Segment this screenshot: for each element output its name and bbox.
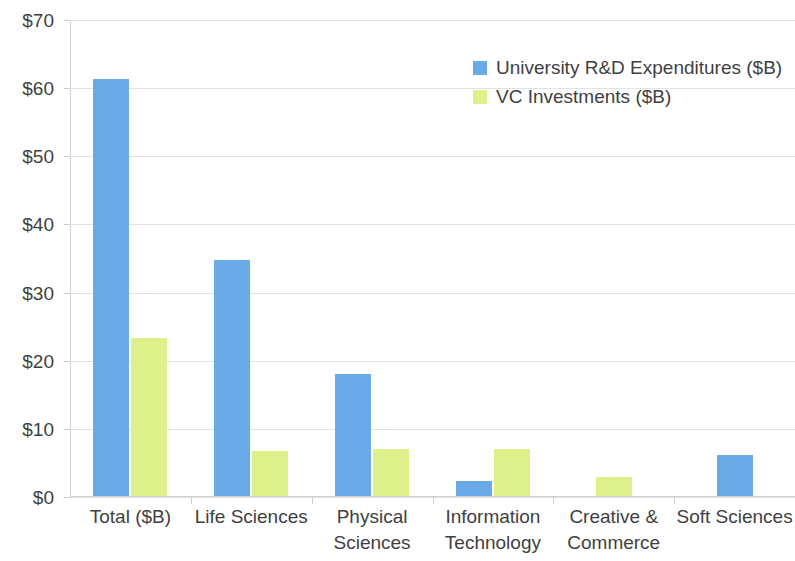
y-tickmark xyxy=(64,497,70,498)
bar xyxy=(373,449,409,497)
bar-group xyxy=(191,20,312,497)
bar-group xyxy=(312,20,433,497)
y-tick-label: $50 xyxy=(22,147,54,166)
x-tick-label-line: Physical xyxy=(312,504,433,530)
y-tick-label: $20 xyxy=(22,351,54,370)
x-tick-label-line: Information xyxy=(433,504,554,530)
bar xyxy=(596,477,632,497)
x-tick-label: Soft Sciences xyxy=(674,504,795,530)
category-separator xyxy=(191,497,192,504)
y-tick-label: $60 xyxy=(22,79,54,98)
x-axis-line xyxy=(70,496,795,497)
x-tick-label-line: Technology xyxy=(433,530,554,556)
y-tick-label: $30 xyxy=(22,283,54,302)
x-axis-labels: Total ($B)Life SciencesPhysicalSciencesI… xyxy=(70,504,795,561)
x-tick-label-line: Total ($B) xyxy=(70,504,191,530)
x-tick-label-line: Soft Sciences xyxy=(674,504,795,530)
x-tick-label: PhysicalSciences xyxy=(312,504,433,556)
bar xyxy=(335,374,371,497)
x-tick-label: InformationTechnology xyxy=(433,504,554,556)
y-tick-label: $10 xyxy=(22,419,54,438)
bar-group xyxy=(70,20,191,497)
bar-chart: $70$60$50$40$30$20$10$0 Total ($B)Life S… xyxy=(0,0,795,561)
category-separator xyxy=(312,497,313,504)
x-tick-label: Total ($B) xyxy=(70,504,191,530)
legend-entry[interactable]: University R&D Expenditures ($B) xyxy=(473,57,782,79)
bar xyxy=(131,338,167,497)
category-separator xyxy=(674,497,675,504)
x-tick-label-line: Commerce xyxy=(553,530,674,556)
y-tick-label: $40 xyxy=(22,215,54,234)
y-tick-label: $70 xyxy=(22,11,54,30)
y-axis: $70$60$50$40$30$20$10$0 xyxy=(0,0,64,561)
category-separator xyxy=(433,497,434,504)
x-tick-label-line: Creative & xyxy=(553,504,674,530)
bar xyxy=(93,79,129,497)
bar xyxy=(214,260,250,497)
legend-swatch-icon xyxy=(473,90,487,104)
category-separator xyxy=(553,497,554,504)
bar xyxy=(252,451,288,497)
x-tick-label-line: Life Sciences xyxy=(191,504,312,530)
legend-swatch-icon xyxy=(473,61,487,75)
x-tick-label-line: Sciences xyxy=(312,530,433,556)
legend-label: VC Investments ($B) xyxy=(496,86,671,108)
x-tick-label: Creative &Commerce xyxy=(553,504,674,556)
legend-entry[interactable]: VC Investments ($B) xyxy=(473,86,782,108)
bar xyxy=(494,449,530,497)
x-tick-label: Life Sciences xyxy=(191,504,312,530)
legend-label: University R&D Expenditures ($B) xyxy=(496,57,782,79)
chart-legend: University R&D Expenditures ($B)VC Inves… xyxy=(473,57,782,108)
bar xyxy=(456,481,492,497)
y-tick-label: $0 xyxy=(33,488,54,507)
bar xyxy=(717,455,753,497)
